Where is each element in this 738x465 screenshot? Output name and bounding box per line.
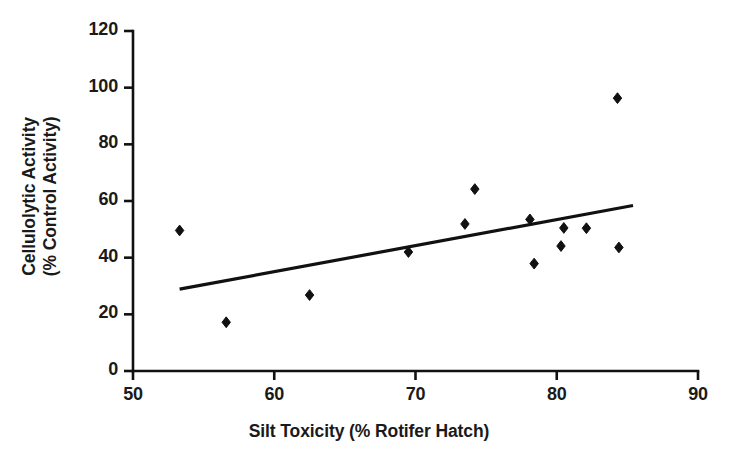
scatter-plot-canvas bbox=[0, 0, 738, 465]
data-point-4 bbox=[461, 219, 469, 230]
data-point-1 bbox=[222, 317, 230, 328]
axes-group bbox=[124, 31, 698, 380]
data-point-0 bbox=[175, 225, 183, 236]
data-point-10 bbox=[582, 223, 590, 234]
data-point-7 bbox=[530, 258, 538, 269]
trend-line-group bbox=[180, 206, 633, 290]
data-point-11 bbox=[613, 93, 621, 104]
chart-figure: Cellulolytic Activity (% Control Activit… bbox=[0, 0, 738, 465]
data-point-5 bbox=[471, 184, 479, 195]
data-point-2 bbox=[305, 290, 313, 301]
trend-line bbox=[180, 206, 633, 290]
data-point-12 bbox=[615, 242, 623, 253]
data-point-8 bbox=[557, 241, 565, 252]
data-point-9 bbox=[560, 223, 568, 234]
data-points-group bbox=[175, 93, 623, 328]
